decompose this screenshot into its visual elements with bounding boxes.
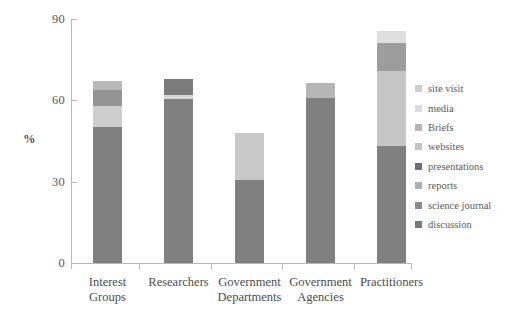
legend-item-site-visit: site visit: [415, 79, 491, 98]
legend-swatch-icon: [415, 202, 422, 209]
bar-segment-websites: [93, 106, 122, 128]
bar-segment-site-visit: [93, 81, 122, 89]
y-tick-60: [71, 100, 77, 101]
y-axis-title: %: [23, 133, 36, 146]
bar-segment-discussion: [377, 146, 406, 263]
bar-segment-discussion: [93, 127, 122, 263]
x-tick-3: [282, 263, 283, 269]
bar-practitioners: [377, 31, 406, 263]
legend-item-science-journal: science journal: [415, 195, 491, 214]
y-tick-30: [71, 182, 77, 183]
chart-legend: site visitmediaBriefswebsitespresentatio…: [415, 79, 491, 234]
legend-swatch-icon: [415, 85, 422, 92]
legend-swatch-icon: [415, 143, 422, 150]
legend-item-media: media: [415, 98, 491, 117]
x-tick-0: [71, 263, 72, 269]
bar-segment-briefs: [93, 90, 122, 106]
x-label-practitioners: Practitioners: [346, 275, 438, 290]
legend-item-briefs: Briefs: [415, 118, 491, 137]
bar-segment-briefs: [377, 43, 406, 70]
legend-label: websites: [428, 141, 464, 152]
legend-swatch-icon: [415, 124, 422, 131]
legend-swatch-icon: [415, 221, 422, 228]
bar-interest-groups: [93, 81, 122, 263]
bar-segment-site-visit: [377, 31, 406, 43]
bar-segment-media: [235, 133, 264, 180]
bar-segment-discussion: [306, 98, 335, 263]
x-label-line: Groups: [62, 290, 154, 305]
legend-swatch-icon: [415, 105, 422, 112]
y-axis-line: [71, 19, 72, 264]
legend-label: Briefs: [428, 122, 454, 133]
y-tick-label-90: 90: [31, 13, 65, 26]
x-label-line: Practitioners: [346, 275, 438, 290]
legend-item-discussion: discussion: [415, 215, 491, 234]
bar-researchers: [164, 79, 193, 263]
y-tick-label-60: 60: [31, 94, 65, 107]
legend-label: site visit: [428, 83, 463, 94]
stacked-bar-chart: 0306090 % InterestGroupsResearchersGover…: [0, 0, 521, 323]
x-tick-4: [354, 263, 355, 269]
legend-label: science journal: [428, 200, 491, 211]
legend-item-websites: websites: [415, 137, 491, 156]
x-label-line: Agencies: [275, 290, 367, 305]
bar-segment-discussion: [164, 99, 193, 263]
legend-label: media: [428, 103, 454, 114]
x-axis-line: [71, 263, 411, 264]
bar-segment-briefs: [306, 83, 335, 98]
bar-segment-discussion: [235, 180, 264, 263]
y-tick-label-30: 30: [31, 176, 65, 189]
legend-item-presentations: presentations: [415, 157, 491, 176]
legend-swatch-icon: [415, 163, 422, 170]
legend-item-reports: reports: [415, 176, 491, 195]
legend-swatch-icon: [415, 182, 422, 189]
y-tick-label-0: 0: [31, 257, 65, 270]
legend-label: presentations: [428, 161, 483, 172]
x-tick-5: [411, 263, 412, 269]
bar-segment-presentations: [164, 79, 193, 95]
x-tick-1: [139, 263, 140, 269]
x-tick-2: [211, 263, 212, 269]
legend-label: discussion: [428, 219, 472, 230]
bar-segment-media: [377, 71, 406, 147]
y-tick-90: [71, 19, 77, 20]
legend-label: reports: [428, 180, 457, 191]
bar-government-departments: [235, 133, 264, 263]
bar-government-agencies: [306, 83, 335, 263]
